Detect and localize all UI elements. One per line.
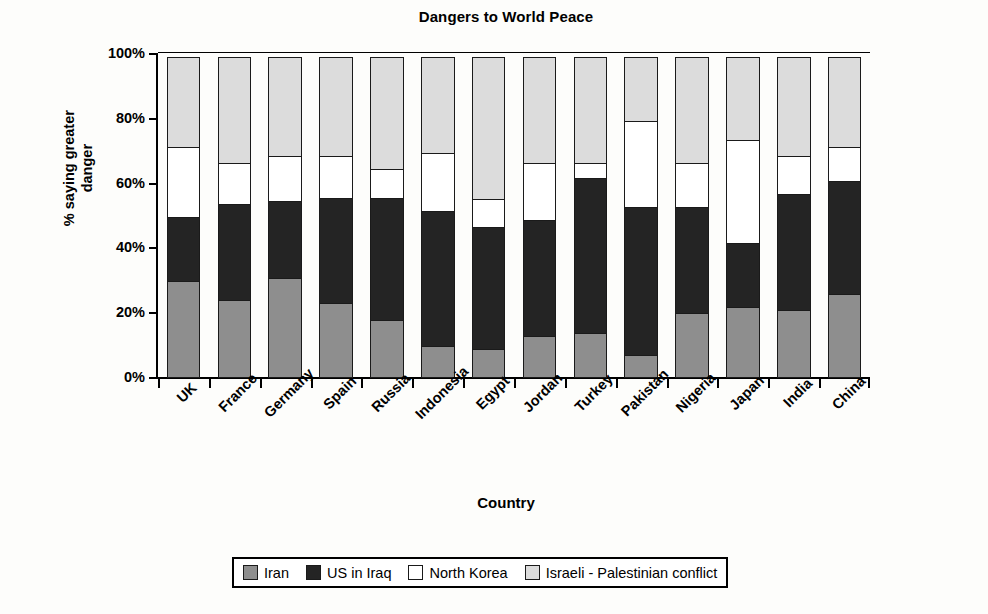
bar-segment[interactable] [777,310,811,378]
bar-segment[interactable] [167,281,201,378]
stacked-bar[interactable] [624,53,658,377]
bar-segment[interactable] [319,198,353,305]
bar-segment[interactable] [523,220,557,337]
bar-slot [158,53,209,377]
x-axis-title-text: Country [477,494,535,511]
bar-segment[interactable] [726,243,760,308]
bar-slot [667,53,718,377]
bar-segment[interactable] [218,163,252,205]
x-axis-category: Indonesia [410,381,461,481]
x-axis-category: Turkey [563,381,614,481]
legend-item[interactable]: Iran [243,565,289,581]
stacked-bar[interactable] [726,53,760,377]
stacked-bar[interactable] [167,53,201,377]
bar-segment[interactable] [268,156,302,201]
bar-segment[interactable] [624,57,658,122]
bar-segment[interactable] [675,207,709,314]
bar-segment[interactable] [472,57,506,200]
bar-segment[interactable] [675,57,709,164]
bar-segment[interactable] [268,201,302,279]
bar-segment[interactable] [268,278,302,378]
bar-segment[interactable] [726,307,760,378]
bar-segment[interactable] [421,211,455,347]
x-axis-category: China [817,381,868,481]
legend-swatch-icon [408,565,423,580]
bar-segment[interactable] [167,147,201,218]
bar-segment[interactable] [574,163,608,179]
y-axis-title: % saying greater danger [60,108,96,228]
stacked-bar[interactable] [268,53,302,377]
bar-segment[interactable] [574,57,608,164]
bar-segment[interactable] [624,121,658,208]
bar-slot [768,53,819,377]
bar-segment[interactable] [777,156,811,195]
bar-slot [463,53,514,377]
bar-segment[interactable] [828,181,862,294]
bar-segment[interactable] [777,57,811,157]
bar-segment[interactable] [726,57,760,141]
legend-label: Israeli - Palestinian conflict [546,565,718,581]
bar-segment[interactable] [624,207,658,356]
x-axis-category-label: India [780,375,815,410]
stacked-bar[interactable] [523,53,557,377]
stacked-bar[interactable] [370,53,404,377]
bar-segment[interactable] [828,57,862,148]
x-axis-category: Jordan [512,381,563,481]
stacked-bar[interactable] [675,53,709,377]
x-axis-title: Country [0,494,988,511]
bar-segment[interactable] [319,57,353,157]
legend-label: Iran [264,565,289,581]
bar-segment[interactable] [675,163,709,208]
bar-segment[interactable] [523,57,557,164]
bar-segment[interactable] [472,199,506,228]
bar-segment[interactable] [472,227,506,350]
bar-segment[interactable] [370,320,404,378]
bar-slot [209,53,260,377]
x-axis-category: Japan [715,381,766,481]
bar-segment[interactable] [370,57,404,170]
bar-segment[interactable] [268,57,302,157]
bar-segment[interactable] [523,163,557,221]
bar-segment[interactable] [828,294,862,378]
bar-segment[interactable] [421,57,455,154]
x-axis-category: France [207,381,258,481]
bar-slot [565,53,616,377]
bar-segment[interactable] [218,204,252,301]
bar-slot [616,53,667,377]
bar-segment[interactable] [218,300,252,378]
bar-segment[interactable] [370,169,404,198]
legend-label: North Korea [429,565,507,581]
legend-item[interactable]: North Korea [408,565,507,581]
stacked-bar[interactable] [777,53,811,377]
x-axis-category: India [766,381,817,481]
stacked-bar[interactable] [828,53,862,377]
bar-segment[interactable] [319,303,353,378]
bar-segment[interactable] [167,57,201,148]
bar-segment[interactable] [421,153,455,211]
y-axis-tick-label: 80% [116,110,145,126]
bar-segment[interactable] [370,198,404,321]
stacked-bar[interactable] [574,53,608,377]
x-axis-category: UK [156,381,207,481]
y-axis-title-line-1: % saying greater [60,108,78,228]
stacked-bar-chart: Dangers to World Peace % saying greater … [0,0,988,614]
bar-segment[interactable] [675,313,709,378]
stacked-bar[interactable] [218,53,252,377]
stacked-bar[interactable] [421,53,455,377]
bar-segment[interactable] [319,156,353,198]
bar-segment[interactable] [777,194,811,311]
bar-segment[interactable] [828,147,862,183]
y-axis-tick-label: 0% [124,369,145,385]
y-axis-tick [149,247,158,249]
legend-item[interactable]: Israeli - Palestinian conflict [525,565,718,581]
y-axis-tick [149,312,158,314]
y-axis-tick [149,377,158,379]
stacked-bar[interactable] [319,53,353,377]
bar-segment[interactable] [167,217,201,282]
bar-segment[interactable] [218,57,252,164]
bar-segment[interactable] [574,178,608,334]
bar-segment[interactable] [726,140,760,244]
legend-item[interactable]: US in Iraq [306,565,391,581]
stacked-bar[interactable] [472,53,506,377]
chart-title: Dangers to World Peace [0,8,988,25]
